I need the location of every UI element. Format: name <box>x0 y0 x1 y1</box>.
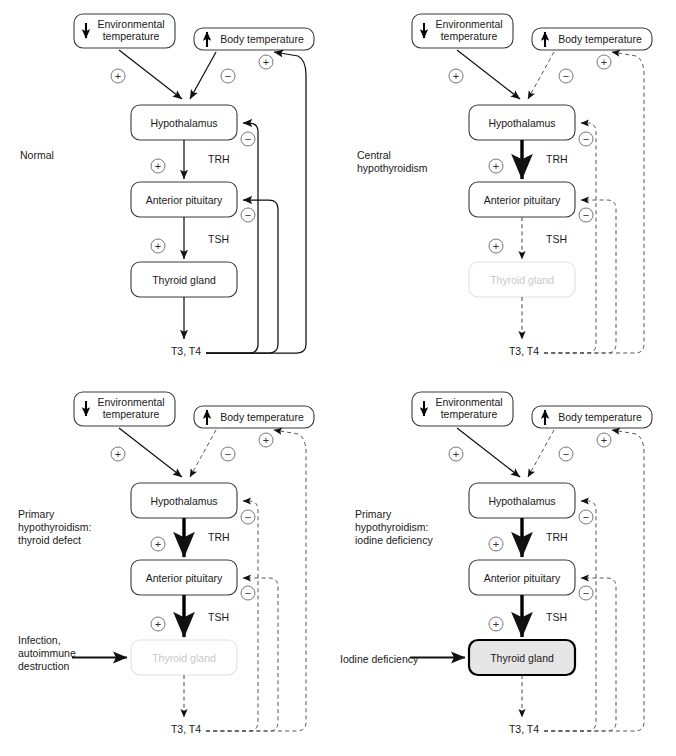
tsh-label: TSH <box>546 233 567 245</box>
insult-caption-iodine-deficiency: Iodine deficiency <box>340 653 418 666</box>
thyroid-gland-label: Thyroid gland <box>152 652 216 664</box>
t3t4-label: T3, T4 <box>171 345 201 357</box>
hypothalamus-label: Hypothalamus <box>150 117 217 129</box>
hypothalamus-label: Hypothalamus <box>488 495 555 507</box>
feedback-body-temp-plus-symbol: + <box>601 56 607 68</box>
tsh-plus-symbol: + <box>493 618 499 630</box>
body-temperature-label: Body temperature <box>220 33 304 45</box>
body-temp-to-hypothalamus-arrow <box>190 52 216 99</box>
environmental-temperature-label-line2: temperature <box>103 408 160 420</box>
feedback-body-temp-plus-symbol: + <box>601 434 607 446</box>
tsh-label: TSH <box>208 233 229 245</box>
body-temp-to-hypothalamus-minus-symbol: − <box>225 70 231 82</box>
insult-caption-infection-autoimmune-line-3: destruction <box>18 660 76 673</box>
env-to-hypothalamus-plus-symbol: + <box>453 448 459 460</box>
body-temp-to-hypothalamus-minus-symbol: − <box>563 70 569 82</box>
body-temperature-label: Body temperature <box>220 411 304 423</box>
env-to-hypothalamus-arrow <box>119 50 182 99</box>
trh-plus-symbol: + <box>493 160 499 172</box>
insult-caption-infection-autoimmune-line-1: Infection, <box>18 634 76 647</box>
trh-label: TRH <box>208 531 230 543</box>
panel-caption-primary-hypothyroidism-thyroid-defect-line-1: Primary <box>18 508 92 521</box>
panel-normal: EnvironmentaltemperatureBody temperature… <box>74 14 314 357</box>
body-temp-to-hypothalamus-arrow <box>528 430 554 477</box>
panel-caption-primary-hypothyroidism-thyroid-defect: Primaryhypothyroidism:thyroid defect <box>18 508 92 547</box>
t3t4-label: T3, T4 <box>509 345 539 357</box>
body-temperature-label: Body temperature <box>558 33 642 45</box>
thyroid-gland-label: Thyroid gland <box>490 652 554 664</box>
trh-label: TRH <box>546 531 568 543</box>
trh-plus-symbol: + <box>155 538 161 550</box>
env-to-hypothalamus-arrow <box>457 428 520 477</box>
hypothalamus-label: Hypothalamus <box>488 117 555 129</box>
trh-plus-symbol: + <box>493 538 499 550</box>
t3t4-label: T3, T4 <box>171 723 201 735</box>
panel-caption-central-hypothyroidism: Centralhypothyroidism <box>357 149 428 175</box>
panel-caption-central-hypothyroidism-line-1: Central <box>357 149 428 162</box>
panel-caption-normal: Normal <box>20 149 54 162</box>
thyroid-gland-label: Thyroid gland <box>152 274 216 286</box>
anterior-pituitary-label: Anterior pituitary <box>484 572 561 584</box>
env-to-hypothalamus-plus-symbol: + <box>115 448 121 460</box>
panel-caption-normal-line-1: Normal <box>20 149 54 162</box>
anterior-pituitary-label: Anterior pituitary <box>146 194 223 206</box>
feedback-pituitary-minus-symbol: − <box>583 209 589 221</box>
thyroid-gland-label: Thyroid gland <box>490 274 554 286</box>
panel-caption-primary-hypothyroidism-iodine-deficiency-line-1: Primary <box>355 508 433 521</box>
hypothalamus-label: Hypothalamus <box>150 495 217 507</box>
feedback-body-temp-plus-symbol: + <box>263 56 269 68</box>
thyroid-regulation-diagram: EnvironmentaltemperatureBody temperature… <box>0 0 676 756</box>
environmental-temperature-label-line1: Environmental <box>435 18 502 30</box>
feedback-hypothalamus-minus-symbol: − <box>245 133 251 145</box>
environmental-temperature-label-line1: Environmental <box>97 396 164 408</box>
trh-label: TRH <box>208 153 230 165</box>
body-temp-to-hypothalamus-minus-symbol: − <box>563 448 569 460</box>
insult-caption-infection-autoimmune: Infection,autoimmunedestruction <box>18 634 76 673</box>
tsh-plus-symbol: + <box>155 618 161 630</box>
tsh-label: TSH <box>208 611 229 623</box>
tsh-plus-symbol: + <box>155 240 161 252</box>
feedback-pituitary-minus-symbol: − <box>583 587 589 599</box>
environmental-temperature-label-line2: temperature <box>103 30 160 42</box>
body-temp-to-hypothalamus-arrow <box>190 430 216 477</box>
env-to-hypothalamus-arrow <box>457 50 520 99</box>
environmental-temperature-label-line2: temperature <box>441 408 498 420</box>
panel-caption-primary-hypothyroidism-iodine-deficiency: Primaryhypothyroidism:iodine deficiency <box>355 508 433 547</box>
feedback-hypothalamus-minus-symbol: − <box>245 511 251 523</box>
panel-primary-hypothyroidism-thyroid-defect: EnvironmentaltemperatureBody temperature… <box>72 392 314 735</box>
panel-caption-primary-hypothyroidism-iodine-deficiency-line-2: hypothyroidism: <box>355 521 433 534</box>
environmental-temperature-label-line1: Environmental <box>435 396 502 408</box>
body-temp-to-hypothalamus-arrow <box>528 52 554 99</box>
figure-canvas: EnvironmentaltemperatureBody temperature… <box>0 0 676 756</box>
tsh-label: TSH <box>546 611 567 623</box>
panel-caption-central-hypothyroidism-line-2: hypothyroidism <box>357 162 428 175</box>
environmental-temperature-label-line2: temperature <box>441 30 498 42</box>
insult-caption-iodine-deficiency-line-1: Iodine deficiency <box>340 653 418 666</box>
anterior-pituitary-label: Anterior pituitary <box>484 194 561 206</box>
env-to-hypothalamus-plus-symbol: + <box>115 70 121 82</box>
t3t4-label: T3, T4 <box>509 723 539 735</box>
panel-caption-primary-hypothyroidism-iodine-deficiency-line-3: iodine deficiency <box>355 534 433 547</box>
panel-caption-primary-hypothyroidism-thyroid-defect-line-2: hypothyroidism: <box>18 521 92 534</box>
feedback-pituitary-minus-symbol: − <box>245 209 251 221</box>
body-temperature-label: Body temperature <box>558 411 642 423</box>
anterior-pituitary-label: Anterior pituitary <box>146 572 223 584</box>
feedback-pituitary-minus-symbol: − <box>245 587 251 599</box>
panel-central-hypothyroidism: EnvironmentaltemperatureBody temperature… <box>412 14 652 357</box>
trh-plus-symbol: + <box>155 160 161 172</box>
panel-primary-hypothyroidism-iodine-deficiency: EnvironmentaltemperatureBody temperature… <box>410 392 652 735</box>
panel-caption-primary-hypothyroidism-thyroid-defect-line-3: thyroid defect <box>18 534 92 547</box>
feedback-hypothalamus-minus-symbol: − <box>583 511 589 523</box>
environmental-temperature-label-line1: Environmental <box>97 18 164 30</box>
trh-label: TRH <box>546 153 568 165</box>
tsh-plus-symbol: + <box>493 240 499 252</box>
env-to-hypothalamus-plus-symbol: + <box>453 70 459 82</box>
env-to-hypothalamus-arrow <box>119 428 182 477</box>
insult-caption-infection-autoimmune-line-2: autoimmune <box>18 647 76 660</box>
body-temp-to-hypothalamus-minus-symbol: − <box>225 448 231 460</box>
feedback-hypothalamus-minus-symbol: − <box>583 133 589 145</box>
feedback-body-temp-plus-symbol: + <box>263 434 269 446</box>
